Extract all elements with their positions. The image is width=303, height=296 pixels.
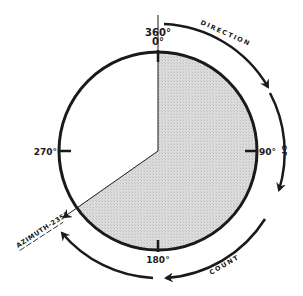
- arrow-arc-2: [270, 93, 285, 190]
- label-90: 90°: [259, 147, 276, 157]
- label-0: 0°: [152, 36, 164, 47]
- azimuth-label: AZIMUTH-235°: [15, 210, 70, 250]
- word-of: OF: [280, 145, 288, 157]
- label-270: 270°: [34, 147, 57, 157]
- label-180: 180°: [146, 255, 169, 265]
- azimuth-diagram: 360° 0° 90° 180° 270° DIRECTION OF COUNT…: [0, 0, 303, 296]
